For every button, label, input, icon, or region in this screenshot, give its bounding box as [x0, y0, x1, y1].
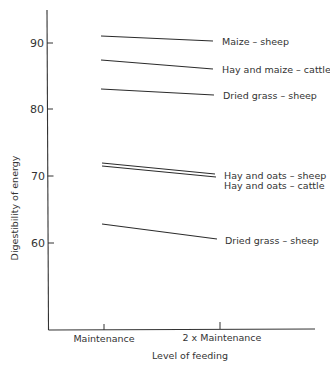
series-label-hay-maize-cattle: Hay and maize – cattle [222, 64, 330, 75]
x-axis-title: Level of feeding [152, 350, 228, 361]
series-label-dried-grass-sheep-lower: Dried grass – sheep [225, 235, 319, 246]
x-category-2x-maintenance: 2 x Maintenance [183, 332, 262, 343]
y-tick-label-70: 70 [31, 170, 45, 183]
x-axis [49, 329, 316, 330]
y-tick-label-90: 90 [30, 37, 44, 50]
series-line-hay-maize-cattle [101, 60, 213, 69]
series-line-dried-grass-sheep-lower [102, 224, 217, 239]
y-axis-title: Digestibility of energy [9, 155, 20, 260]
line-chart: 90 80 70 60 Maintenance 2 x Maintenance … [0, 0, 330, 369]
series-line-maize-sheep [101, 36, 213, 41]
x-category-maintenance: Maintenance [73, 333, 134, 344]
series-line-hay-oats-cattle [102, 166, 216, 177]
series-label-hay-oats-cattle: Hay and oats – cattle [224, 180, 325, 191]
y-axis [47, 10, 49, 330]
y-tick-label-80: 80 [30, 103, 44, 116]
series-line-hay-oats-sheep [102, 163, 215, 174]
series-label-dried-grass-sheep-upper: Dried grass – sheep [223, 90, 317, 101]
y-tick-label-60: 60 [31, 237, 45, 250]
series-label-maize-sheep: Maize – sheep [222, 36, 289, 47]
series-line-dried-grass-sheep-upper [101, 89, 214, 95]
